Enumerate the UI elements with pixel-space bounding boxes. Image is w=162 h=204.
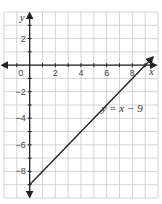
x-axis-label: x bbox=[148, 65, 154, 77]
x-tick-label: 0 bbox=[18, 68, 23, 78]
y-tick-label: −2 bbox=[15, 87, 25, 97]
data-line bbox=[30, 57, 153, 185]
x-tick-label: 2 bbox=[53, 68, 58, 78]
y-tick-label: −4 bbox=[15, 113, 25, 123]
equation-label: y = x − 9 bbox=[101, 102, 144, 114]
line-y-equals-x-minus-9 bbox=[30, 57, 153, 185]
y-tick-label: 2 bbox=[21, 34, 26, 44]
y-tick-label: −6 bbox=[15, 140, 25, 150]
x-tick-label: 4 bbox=[78, 68, 83, 78]
y-tick-label: −8 bbox=[15, 166, 25, 176]
x-tick-label: 6 bbox=[104, 68, 109, 78]
coordinate-plane: 024682−2−4−6−8 x y y = x − 9 bbox=[0, 0, 162, 204]
y-axis-label: y bbox=[19, 11, 25, 23]
